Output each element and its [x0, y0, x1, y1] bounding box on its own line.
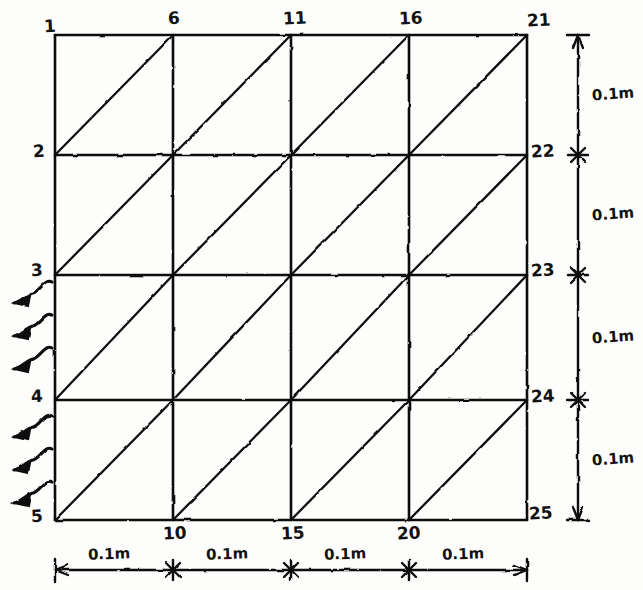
mesh-diagonal-0-3 — [55, 400, 173, 520]
mesh-diagonal-2-2 — [291, 275, 409, 400]
h-dimension-label-1: 0.1m — [206, 546, 249, 562]
mesh-diagonal-0-0 — [55, 35, 173, 155]
node-label-23: 23 — [531, 261, 556, 279]
node-label-6: 6 — [168, 10, 181, 28]
node-label-25: 25 — [529, 504, 554, 522]
mesh-diagonal-2-1 — [291, 155, 409, 275]
mesh-diagonal-1-0 — [173, 35, 291, 155]
mesh-diagonal-3-1 — [409, 155, 527, 275]
node-label-16: 16 — [399, 9, 424, 27]
node-label-15: 15 — [281, 524, 306, 542]
mesh-diagonal-2-3 — [291, 400, 409, 520]
node-label-3: 3 — [31, 262, 44, 280]
node-label-5: 5 — [31, 508, 44, 526]
mesh-diagonal-3-0 — [409, 35, 527, 155]
h-dimension-label-0: 0.1m — [88, 546, 131, 562]
h-dimension-label-3: 0.1m — [442, 546, 485, 562]
node-label-1: 1 — [44, 18, 57, 36]
v-dimension-label-1: 0.1m — [592, 206, 635, 224]
v-dimension-label-3: 0.1m — [592, 451, 635, 469]
mesh-diagonal-3-2 — [409, 275, 527, 400]
mesh-diagonal-1-1 — [173, 155, 291, 275]
v-dimension-label-2: 0.1m — [592, 328, 635, 346]
mesh-diagonal-0-1 — [55, 155, 173, 275]
mesh-diagonal-3-3 — [409, 400, 527, 520]
node-label-22: 22 — [531, 142, 556, 160]
mesh-diagonal-0-2 — [55, 275, 173, 400]
figure-canvas: 12345611162122232425101520 0.1m0.1m0.1m0… — [0, 0, 643, 590]
mesh-diagonal-1-2 — [173, 275, 291, 400]
node-label-11: 11 — [283, 9, 308, 27]
v-dimension-label-0: 0.1m — [592, 86, 635, 104]
node-label-21: 21 — [527, 11, 552, 29]
node-label-4: 4 — [31, 388, 44, 406]
node-label-2: 2 — [33, 143, 46, 161]
node-label-24: 24 — [531, 387, 556, 405]
node-label-20: 20 — [397, 524, 422, 542]
mesh-diagonal-1-3 — [173, 400, 291, 520]
mesh-drawing — [0, 0, 643, 590]
mesh-diagonal-2-0 — [291, 35, 409, 155]
vertical-dimension-line — [567, 35, 589, 520]
h-dimension-label-2: 0.1m — [324, 546, 367, 562]
node-label-10: 10 — [163, 524, 188, 542]
